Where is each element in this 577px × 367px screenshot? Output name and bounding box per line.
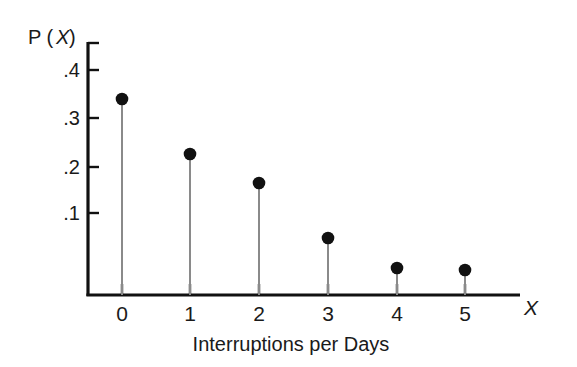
x-tick-label: 0 [116,302,128,325]
y-tick-label: .4 [63,59,80,81]
x-axis-symbol: X [523,296,539,319]
x-axis-title: Interruptions per Days [193,333,390,355]
x-ticks-group: 0 1 2 3 4 5 [116,284,471,325]
y-axis-label-prefix: P ( [28,26,54,48]
y-tick-label: .3 [63,107,80,129]
x-tick-label: 3 [322,302,334,325]
y-ticks-group: .4 .3 .2 .1 [63,59,99,224]
y-tick-label: .1 [63,202,80,224]
y-tick-4: .4 [63,59,99,81]
y-tick-3: .3 [63,107,99,129]
stems-group [122,99,465,295]
y-axis-label-variable: X [55,26,70,48]
y-axis-label: P ( X ) [28,26,76,48]
axes-group [86,42,520,296]
data-point [253,177,266,190]
x-tick-label: 2 [253,302,265,325]
data-point [391,262,404,275]
x-tick-label: 1 [184,302,196,325]
x-tick-label: 4 [391,302,403,325]
x-tick-label: 5 [459,302,471,325]
y-axis-label-suffix: ) [69,26,76,48]
y-tick-2: .2 [63,156,99,178]
data-point [322,232,335,245]
y-tick-label: .2 [63,156,80,178]
data-point [116,93,129,106]
y-tick-1: .1 [63,202,99,224]
chart-canvas: P ( X ) .4 .3 .2 [0,0,577,367]
data-points-group [116,93,472,277]
probability-distribution-chart: P ( X ) .4 .3 .2 [0,0,577,367]
data-point [184,148,197,161]
data-point [459,264,472,277]
